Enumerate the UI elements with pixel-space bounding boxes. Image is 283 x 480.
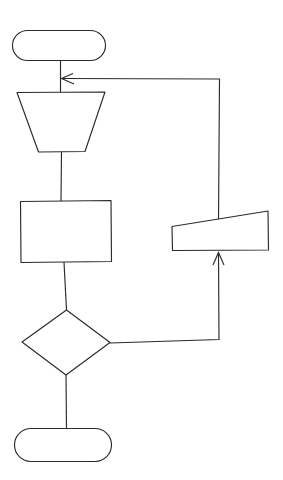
node-merge-trapezoid[interactable] (17, 92, 105, 152)
connector-process-to-decision[interactable] (64, 262, 67, 310)
connector-decision-to-data[interactable] (110, 253, 224, 344)
node-end-terminal[interactable] (15, 429, 112, 462)
node-start-terminal[interactable] (13, 31, 106, 61)
data-parallelogram-shape (172, 211, 269, 251)
node-process-rectangle[interactable] (21, 201, 112, 263)
start-terminal-shape (13, 31, 106, 61)
connector-merge-to-process[interactable] (61, 152, 62, 202)
connector-decision-to-end-path (66, 375, 67, 428)
connector-decision-to-data-path (110, 253, 219, 343)
merge-trapezoid-shape (17, 92, 105, 152)
process-rectangle-shape (21, 201, 112, 263)
decision-diamond-shape (22, 310, 110, 375)
connector-merge-to-process-path (61, 152, 62, 202)
flowchart-canvas (0, 0, 283, 480)
node-data-parallelogram[interactable] (172, 211, 269, 251)
node-decision-diamond[interactable] (22, 310, 110, 375)
connector-process-to-decision-path (64, 262, 67, 310)
connector-decision-to-end[interactable] (66, 375, 67, 428)
end-terminal-shape (15, 429, 112, 462)
